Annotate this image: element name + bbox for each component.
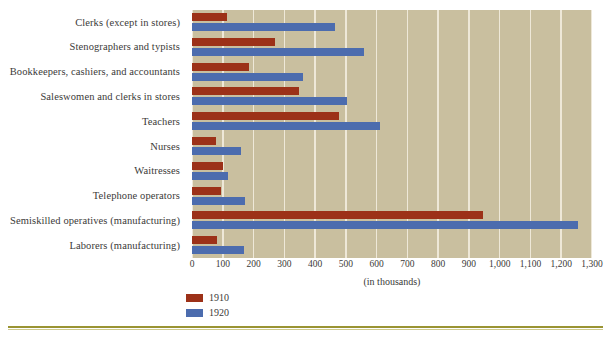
bar-1910 <box>192 137 216 145</box>
bar-row <box>192 35 592 60</box>
category-label: Clerks (except in stores) <box>0 10 186 35</box>
category-label: Semiskilled operatives (manufacturing) <box>0 208 186 233</box>
x-tick-label: 1,100 <box>520 259 541 269</box>
bar-row <box>192 84 592 109</box>
bar-1910 <box>192 112 339 120</box>
bar-1910 <box>192 63 249 71</box>
bar-1920 <box>192 48 364 56</box>
legend-item: 1920 <box>186 306 229 319</box>
bar-1920 <box>192 122 380 130</box>
bar-row <box>192 159 592 184</box>
category-label: Teachers <box>0 109 186 134</box>
legend: 19101920 <box>186 291 229 321</box>
category-label: Bookkeepers, cashiers, and accountants <box>0 60 186 85</box>
category-label: Telephone operators <box>0 184 186 209</box>
bar-1920 <box>192 147 241 155</box>
legend-swatch-icon <box>186 309 203 317</box>
bar-row <box>192 233 592 258</box>
bar-row <box>192 109 592 134</box>
bar-row <box>192 184 592 209</box>
bar-1910 <box>192 236 217 244</box>
x-tick-label: 300 <box>277 259 291 269</box>
x-tick-label: 0 <box>190 259 195 269</box>
x-tick-label: 700 <box>400 259 414 269</box>
bar-1920 <box>192 23 335 31</box>
bar-row <box>192 208 592 233</box>
x-tick-label: 400 <box>308 259 322 269</box>
bar-1910 <box>192 13 227 21</box>
x-axis-label: (in thousands) <box>192 276 592 287</box>
category-axis-labels: Clerks (except in stores)Stenographers a… <box>0 10 186 258</box>
bar-1920 <box>192 197 245 205</box>
x-tick-label: 900 <box>462 259 476 269</box>
category-label: Nurses <box>0 134 186 159</box>
x-tick-label: 200 <box>246 259 260 269</box>
bar-1910 <box>192 162 223 170</box>
bar-row <box>192 10 592 35</box>
category-label: Laborers (manufacturing) <box>0 233 186 258</box>
x-tick-label: 1,000 <box>489 259 510 269</box>
x-tick-label: 500 <box>339 259 353 269</box>
category-label: Waitresses <box>0 159 186 184</box>
plot-area <box>192 10 592 258</box>
bar-1910 <box>192 38 275 46</box>
bar-1920 <box>192 73 303 81</box>
bar-row <box>192 134 592 159</box>
bar-row <box>192 60 592 85</box>
legend-swatch-icon <box>186 294 203 302</box>
bar-1920 <box>192 97 347 105</box>
bar-1920 <box>192 246 244 254</box>
x-tick-label: 600 <box>369 259 383 269</box>
legend-label: 1920 <box>209 307 229 318</box>
x-axis-ticks: 01002003004005006007008009001,0001,1001,… <box>192 259 592 275</box>
bar-1920 <box>192 221 578 229</box>
bar-chart: Clerks (except in stores)Stenographers a… <box>0 0 611 337</box>
x-tick-label: 800 <box>431 259 445 269</box>
bar-rows <box>192 10 592 258</box>
category-label: Saleswomen and clerks in stores <box>0 84 186 109</box>
legend-label: 1910 <box>209 292 229 303</box>
x-tick-label: 1,300 <box>581 259 602 269</box>
x-tick-label: 100 <box>216 259 230 269</box>
legend-item: 1910 <box>186 291 229 304</box>
bar-1910 <box>192 211 483 219</box>
bar-1920 <box>192 172 228 180</box>
bar-1910 <box>192 87 299 95</box>
bar-1910 <box>192 187 221 195</box>
x-tick-label: 1,200 <box>551 259 572 269</box>
category-label: Stenographers and typists <box>0 35 186 60</box>
bottom-rule-secondary <box>8 329 603 330</box>
